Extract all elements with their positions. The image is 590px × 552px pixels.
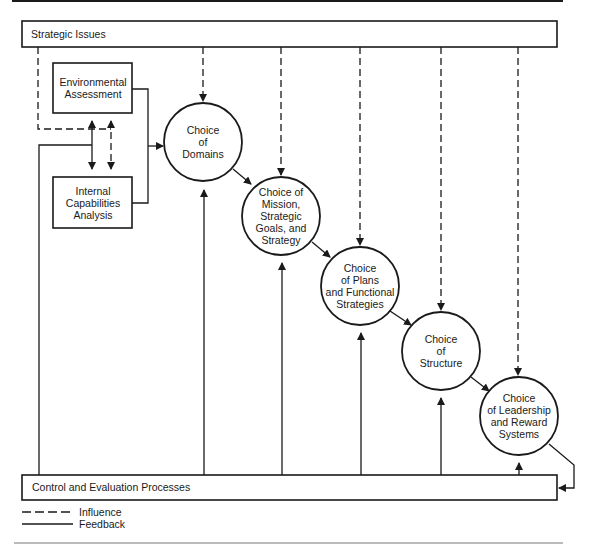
text-line: Strategy bbox=[256, 234, 307, 246]
text-line: and Functional bbox=[326, 286, 395, 298]
domains-label: Choice of Domains bbox=[182, 124, 223, 160]
text-line: Strategic bbox=[256, 210, 307, 222]
plans-label: Choice of Plans and Functional Strategie… bbox=[326, 262, 395, 310]
internal-capabilities-label: Internal Capabilities Analysis bbox=[66, 185, 120, 221]
text-line: Systems bbox=[487, 428, 551, 440]
text-line: of bbox=[182, 136, 223, 148]
text-line: of Plans bbox=[326, 274, 395, 286]
text-line: Analysis bbox=[66, 209, 120, 221]
mission-label: Choice of Mission, Strategic Goals, and … bbox=[256, 186, 307, 246]
text-line: Internal bbox=[66, 185, 120, 197]
text-line: Strategies bbox=[326, 298, 395, 310]
environmental-assessment-label: Environmental Assessment bbox=[59, 76, 126, 100]
text-line: Choice bbox=[326, 262, 395, 274]
legend-feedback-label: Feedback bbox=[79, 518, 125, 530]
legend-influence-label: Influence bbox=[79, 506, 122, 518]
text-line: Environmental bbox=[59, 76, 126, 88]
text-line: and Reward bbox=[487, 416, 551, 428]
text-line: of bbox=[420, 345, 463, 357]
leadership-label: Choice of Leadership and Reward Systems bbox=[487, 392, 551, 440]
text-line: Assessment bbox=[59, 88, 126, 100]
text-line: Goals, and bbox=[256, 222, 307, 234]
text-line: Capabilities bbox=[66, 197, 120, 209]
text-line: Choice bbox=[182, 124, 223, 136]
text-line: Mission, bbox=[256, 198, 307, 210]
strategic-issues-label: Strategic Issues bbox=[31, 28, 106, 40]
text-line: Domains bbox=[182, 148, 223, 160]
text-line: Choice bbox=[487, 392, 551, 404]
control-evaluation-label: Control and Evaluation Processes bbox=[32, 481, 190, 493]
text-line: Choice bbox=[420, 333, 463, 345]
text-line: Choice of bbox=[256, 186, 307, 198]
text-line: of Leadership bbox=[487, 404, 551, 416]
structure-label: Choice of Structure bbox=[420, 333, 463, 369]
text-line: Structure bbox=[420, 357, 463, 369]
